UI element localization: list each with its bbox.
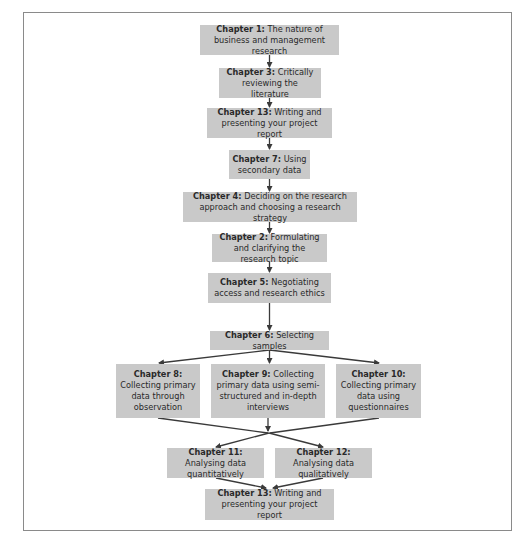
node-title: Collecting primary data through observat… xyxy=(120,380,195,412)
node-title: Analysing data quantitatively xyxy=(185,458,246,479)
node-chapter-label: Chapter 13: xyxy=(217,107,271,117)
node-title: Collecting primary data using questionna… xyxy=(341,380,416,412)
node-chapter-label: Chapter 11: xyxy=(188,447,242,457)
node-chapter-label: Chapter 2: xyxy=(219,232,268,242)
node-ch1: Chapter 1: The nature of business and ma… xyxy=(200,25,339,55)
node-chapter-label: Chapter 5: xyxy=(220,277,269,287)
node-chapter-label: Chapter 1: xyxy=(216,24,265,34)
node-chapter-label: Chapter 9: xyxy=(222,369,271,379)
node-ch2: Chapter 2: Formulating and clarifying th… xyxy=(212,234,327,262)
node-ch6: Chapter 6: Selecting samples xyxy=(210,331,329,350)
node-ch7: Chapter 7: Using secondary data xyxy=(229,150,310,179)
node-ch13-first: Chapter 13: Writing and presenting your … xyxy=(207,108,332,138)
node-ch4: Chapter 4: Deciding on the research appr… xyxy=(183,192,357,222)
node-chapter-label: Chapter 12: xyxy=(296,447,350,457)
node-chapter-label: Chapter 10: xyxy=(339,369,418,380)
node-ch9: Chapter 9: Collecting primary data using… xyxy=(211,364,325,418)
node-ch3: Chapter 3: Critically reviewing the lite… xyxy=(219,68,321,98)
node-chapter-label: Chapter 8: xyxy=(119,369,197,380)
node-ch13-final: Chapter 13: Writing and presenting your … xyxy=(205,489,334,520)
node-ch8: Chapter 8:Collecting primary data throug… xyxy=(116,364,200,418)
node-ch5: Chapter 5: Negotiating access and resear… xyxy=(208,273,331,303)
node-ch11: Chapter 11: Analysing data quantitativel… xyxy=(167,448,264,478)
node-title: Analysing data qualitatively xyxy=(293,458,354,479)
node-ch12: Chapter 12: Analysing data qualitatively xyxy=(275,448,372,478)
node-chapter-label: Chapter 4: xyxy=(193,191,242,201)
node-chapter-label: Chapter 13: xyxy=(217,488,271,498)
node-chapter-label: Chapter 7: xyxy=(232,154,281,164)
node-ch10: Chapter 10:Collecting primary data using… xyxy=(336,364,421,418)
node-chapter-label: Chapter 6: xyxy=(225,330,274,340)
node-chapter-label: Chapter 3: xyxy=(227,67,276,77)
